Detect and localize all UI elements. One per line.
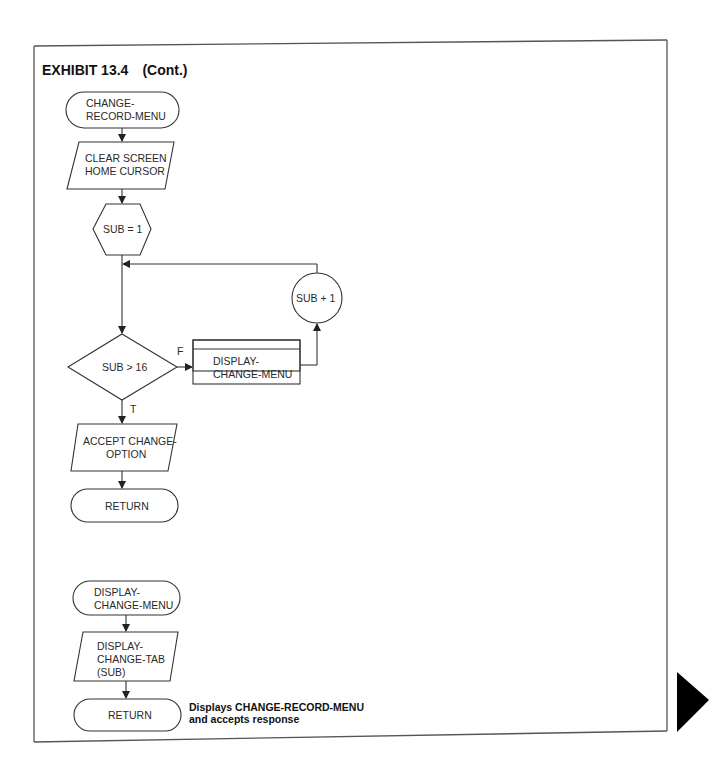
terminal-return-1: RETURN	[71, 489, 178, 522]
svg-text:DISPLAY-: DISPLAY-	[94, 586, 141, 598]
io-accept-change-option: ACCEPT CHANGE- OPTION	[71, 424, 177, 471]
svg-text:CHANGE-TAB: CHANGE-TAB	[97, 653, 165, 665]
terminal-change-record-menu: CHANGE- RECORD-MENU	[66, 92, 179, 128]
io-clear-screen: CLEAR SCREEN HOME CURSOR	[67, 142, 174, 189]
svg-text:CHANGE-: CHANGE-	[86, 97, 135, 109]
process-display-change-menu: DISPLAY- CHANGE-MENU	[193, 340, 300, 380]
svg-text:HOME CURSOR: HOME CURSOR	[85, 165, 165, 177]
terminal-display-change-menu: DISPLAY- CHANGE-MENU	[73, 581, 180, 615]
svg-text:ACCEPT CHANGE-: ACCEPT CHANGE-	[83, 435, 177, 447]
svg-text:and accepts response: and accepts response	[189, 713, 299, 725]
true-label: T	[130, 403, 137, 415]
svg-text:SUB > 16: SUB > 16	[102, 361, 147, 373]
svg-text:DISPLAY-: DISPLAY-	[97, 640, 144, 652]
io-display-change-tab: DISPLAY- CHANGE-TAB (SUB)	[74, 632, 178, 681]
svg-text:SUB = 1: SUB = 1	[103, 223, 143, 235]
increment-sub: SUB + 1	[292, 273, 342, 323]
svg-text:(SUB): (SUB)	[97, 666, 126, 678]
svg-text:Displays CHANGE-RECORD-MENU: Displays CHANGE-RECORD-MENU	[189, 701, 364, 713]
svg-text:RECORD-MENU: RECORD-MENU	[86, 110, 166, 122]
svg-text:DISPLAY-: DISPLAY-	[213, 355, 260, 367]
svg-text:RETURN: RETURN	[108, 709, 152, 721]
svg-text:RETURN: RETURN	[105, 500, 149, 512]
svg-text:OPTION: OPTION	[106, 448, 146, 460]
terminal-return-2: RETURN	[74, 699, 181, 731]
page-tab-marker	[677, 672, 709, 732]
prep-sub-equals-1: SUB = 1	[93, 204, 151, 255]
svg-text:CLEAR SCREEN: CLEAR SCREEN	[85, 152, 167, 164]
false-label: F	[177, 345, 183, 357]
flowchart-canvas: EXHIBIT 13.4(Cont.) CHANGE- RECORD-MENU …	[0, 0, 718, 772]
svg-text:SUB + 1: SUB + 1	[296, 292, 336, 304]
flowchart-caption: Displays CHANGE-RECORD-MENU and accepts …	[189, 701, 364, 725]
svg-text:CHANGE-MENU: CHANGE-MENU	[94, 599, 173, 611]
exhibit-title: EXHIBIT 13.4(Cont.)	[42, 62, 187, 78]
decision-sub-greater-16: SUB > 16	[68, 334, 177, 400]
svg-text:CHANGE-MENU: CHANGE-MENU	[213, 368, 292, 380]
